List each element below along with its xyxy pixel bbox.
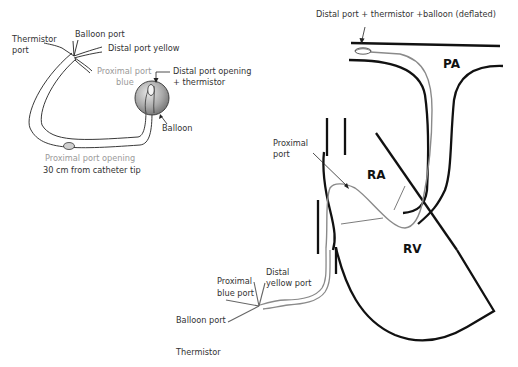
label-rv: RV <box>403 242 422 256</box>
catheter-schematic: Thermistor port Balloon port Distal port… <box>11 29 251 175</box>
label-proximal-blue-port: Proximal <box>217 276 252 286</box>
diagram-canvas: Thermistor port Balloon port Distal port… <box>0 0 518 367</box>
label-distal-tip: Distal port + thermistor +balloon (defla… <box>316 9 496 19</box>
label-proximal-port-opening: Proximal port opening <box>45 153 135 163</box>
heart-schematic: Distal port + thermistor +balloon (defla… <box>175 9 503 357</box>
label-balloon-port: Balloon port <box>176 315 227 325</box>
label-thermistor-port: Thermistor <box>11 34 57 44</box>
label-distal-port-opening: Distal port opening <box>173 66 251 76</box>
label-distal-port-yellow: Distal port yellow <box>108 43 180 53</box>
label-pa: PA <box>443 57 461 71</box>
label-proximal-port-line2: port <box>273 149 291 159</box>
label-balloon: Balloon <box>162 123 192 133</box>
label-proximal-port-blue: Proximal port <box>97 66 152 76</box>
label-proximal-blue-port-line2: blue port <box>217 288 255 298</box>
label-proximal-port-blue-line2: blue <box>116 77 134 87</box>
label-proximal-port: Proximal <box>273 138 308 148</box>
label-ra: RA <box>367 168 386 182</box>
proximal-port-opening-icon <box>64 143 75 150</box>
label-thermistor-port-line2: port <box>12 45 30 55</box>
label-distal-yellow-port-line2: yellow port <box>266 278 312 288</box>
distal-port-opening-icon <box>148 85 154 96</box>
label-balloon-port: Balloon port <box>75 29 126 39</box>
label-distal-port-opening-line2: + thermistor <box>173 77 226 87</box>
label-distal-yellow-port: Distal <box>266 267 289 277</box>
label-thermistor: Thermistor <box>175 347 221 357</box>
label-distance-note: 30 cm from catheter tip <box>43 165 141 175</box>
